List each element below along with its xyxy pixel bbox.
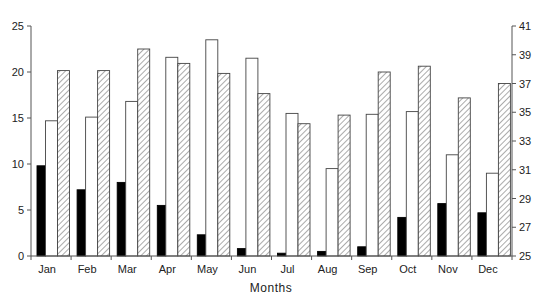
bars-layer <box>37 40 510 256</box>
right-tick-label: 35 <box>519 106 531 118</box>
bar-jan-series-2 <box>46 121 58 256</box>
bar-jan-series-1 <box>37 166 46 256</box>
bar-may-series-1 <box>197 235 206 256</box>
bar-aug-series-3 <box>338 115 350 256</box>
bar-dec-series-1 <box>478 213 487 256</box>
x-tick-label: Jul <box>281 263 295 275</box>
right-tick-label: 31 <box>519 164 531 176</box>
bar-jun-series-3 <box>258 94 270 256</box>
x-tick-label: Feb <box>78 263 97 275</box>
bar-jul-series-2 <box>286 113 298 256</box>
bar-feb-series-1 <box>77 190 86 256</box>
right-y-axis: 252729313335373941 <box>512 20 531 262</box>
bar-oct-series-1 <box>398 217 407 256</box>
x-axis-title: Months <box>250 281 292 295</box>
bar-apr-series-3 <box>178 63 190 256</box>
x-tick-label: Jan <box>38 263 56 275</box>
right-tick-label: 41 <box>519 20 531 32</box>
x-tick-label: Mar <box>118 263 137 275</box>
x-axis: JanFebMarAprMayJunJulAugSepOctNovDec <box>31 256 512 275</box>
bar-nov-series-1 <box>438 204 447 256</box>
right-tick-label: 29 <box>519 193 531 205</box>
x-tick-label: Sep <box>358 263 378 275</box>
x-tick-label: Dec <box>478 263 498 275</box>
x-tick-label: Aug <box>318 263 338 275</box>
bar-jun-series-1 <box>237 249 246 256</box>
left-tick-label: 10 <box>12 158 24 170</box>
bar-jan-series-3 <box>58 71 70 256</box>
right-tick-label: 39 <box>519 49 531 61</box>
left-tick-label: 25 <box>12 20 24 32</box>
x-tick-label: Jun <box>239 263 257 275</box>
bar-dec-series-2 <box>486 173 498 256</box>
bar-nov-series-2 <box>446 155 458 256</box>
bar-may-series-3 <box>218 73 230 256</box>
bar-feb-series-3 <box>98 71 110 256</box>
bar-sep-series-1 <box>358 247 367 256</box>
bar-aug-series-1 <box>318 251 327 256</box>
bar-mar-series-1 <box>117 182 126 256</box>
right-tick-label: 27 <box>519 221 531 233</box>
bar-sep-series-2 <box>366 114 378 256</box>
bar-feb-series-2 <box>86 117 98 256</box>
x-tick-label: Apr <box>159 263 176 275</box>
bar-apr-series-1 <box>157 205 166 256</box>
x-tick-label: Nov <box>438 263 458 275</box>
bar-jul-series-3 <box>298 124 310 256</box>
left-tick-label: 0 <box>18 250 24 262</box>
bar-oct-series-2 <box>406 112 418 256</box>
bar-jun-series-2 <box>246 58 258 256</box>
chart-canvas: 0510152025 252729313335373941 JanFebMarA… <box>0 0 545 304</box>
bar-nov-series-3 <box>458 98 470 256</box>
left-tick-label: 5 <box>18 204 24 216</box>
left-y-axis: 0510152025 <box>12 20 31 262</box>
bar-dec-series-3 <box>498 84 510 257</box>
left-tick-label: 20 <box>12 66 24 78</box>
x-tick-label: Oct <box>399 263 416 275</box>
left-tick-label: 15 <box>12 112 24 124</box>
x-tick-label: May <box>197 263 218 275</box>
bar-oct-series-3 <box>418 66 430 256</box>
bar-mar-series-3 <box>138 49 150 256</box>
bar-aug-series-2 <box>326 169 338 256</box>
right-tick-label: 37 <box>519 78 531 90</box>
bar-chart: 0510152025 252729313335373941 JanFebMarA… <box>0 0 545 304</box>
right-tick-label: 25 <box>519 250 531 262</box>
bar-sep-series-3 <box>378 72 390 256</box>
bar-apr-series-2 <box>166 57 178 256</box>
right-tick-label: 33 <box>519 135 531 147</box>
bar-may-series-2 <box>206 40 218 256</box>
bar-mar-series-2 <box>126 101 138 256</box>
